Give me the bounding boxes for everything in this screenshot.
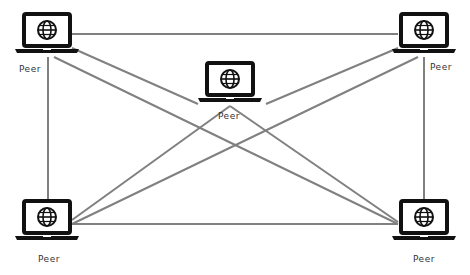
laptop-globe-icon bbox=[392, 201, 456, 240]
peer-label: Peer bbox=[430, 62, 452, 72]
network-diagram bbox=[0, 0, 470, 275]
peer-label: Peer bbox=[413, 254, 435, 264]
laptop-globe-icon bbox=[15, 14, 79, 53]
peer-label: Peer bbox=[218, 111, 240, 121]
laptop-globe-icon bbox=[392, 14, 456, 53]
connection-line bbox=[72, 106, 230, 220]
peer-nodes bbox=[15, 14, 456, 240]
connection-line bbox=[230, 106, 398, 222]
laptop-globe-icon bbox=[198, 63, 262, 102]
laptop-globe-icon bbox=[15, 201, 79, 240]
peer-label: Peer bbox=[38, 254, 60, 264]
peer-label: Peer bbox=[19, 64, 41, 74]
